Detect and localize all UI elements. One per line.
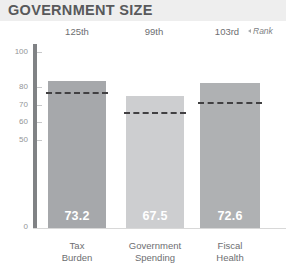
rank-annotation: Rank [248,26,273,36]
rank-annotation-label: Rank [253,26,273,36]
reference-line-tax-burden [46,92,108,94]
category-label-government-spending-line1: Government [129,240,181,251]
bar-tax-burden[interactable]: 73.2 [48,81,106,228]
reference-line-fiscal-health [198,102,262,104]
category-label-fiscal-health-line2: Health [216,252,243,263]
y-tick-label-60: 60 [0,117,28,126]
y-tick-label-100: 100 [0,47,28,56]
y-tick-mark-60 [37,122,42,123]
bar-value-government-spending: 67.5 [126,209,184,223]
government-size-chart-card: GOVERNMENT SIZE 125th 99th 103rd Rank 10… [0,0,286,276]
bar-value-fiscal-health: 72.6 [200,209,260,223]
page-title: GOVERNMENT SIZE [8,2,153,18]
y-tick-label-80: 80 [0,82,28,91]
y-tick-label-50: 50 [0,135,28,144]
reference-line-government-spending [124,112,186,114]
y-tick-mark-100 [37,52,42,53]
category-label-fiscal-health: Fiscal Health [200,240,260,263]
category-label-fiscal-health-line1: Fiscal [218,240,243,251]
bar-government-spending[interactable]: 67.5 [126,96,184,228]
rank-value-government-spending: 99th [118,26,190,37]
bar-value-tax-burden: 73.2 [48,209,106,223]
y-tick-mark-80 [37,87,42,88]
baseline-rule [33,228,286,229]
category-label-tax-burden-line2: Burden [62,252,93,263]
y-tick-label-70: 70 [0,100,28,109]
category-label-government-spending: Government Spending [121,240,189,263]
bar-fiscal-health[interactable]: 72.6 [200,83,260,228]
rank-row: 125th 99th 103rd Rank [0,26,286,40]
plot-area: 100 80 70 60 50 0 73.2 67.5 72.6 [0,44,286,236]
y-tick-mark-50 [37,140,42,141]
y-axis [33,44,37,228]
y-tick-label-0: 0 [0,222,28,231]
triangle-left-icon [248,29,251,33]
chart-title-band: GOVERNMENT SIZE [0,0,286,21]
category-label-row: Tax Burden Government Spending Fiscal He… [0,240,286,270]
category-label-government-spending-line2: Spending [135,252,175,263]
y-tick-mark-70 [37,105,42,106]
category-label-tax-burden: Tax Burden [47,240,107,263]
category-label-tax-burden-line1: Tax [70,240,85,251]
rank-value-tax-burden: 125th [41,26,113,37]
